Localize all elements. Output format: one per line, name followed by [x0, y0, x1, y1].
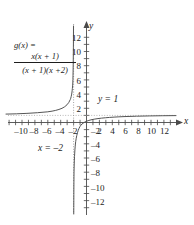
y-tick-label-6: 6 [66, 76, 81, 86]
y-tick-label-8: 8 [66, 61, 81, 71]
y-tick-label-4: 4 [66, 90, 81, 100]
y-tick-label-2: 2 [66, 104, 81, 114]
y-axis-group [84, 21, 90, 215]
y-axis-label: y [89, 21, 93, 31]
y-tick-label--8: –8 [91, 168, 107, 178]
y-tick-label--4: –4 [91, 140, 107, 150]
y-tick-label-12: 12 [66, 33, 81, 43]
x-tick-label-8: 8 [133, 126, 144, 136]
x-tick-label-4: 4 [107, 126, 118, 136]
x-tick-label--2: –2 [65, 126, 81, 136]
y-tick-label--2: –2 [91, 126, 107, 136]
x-axis-arrowhead [176, 120, 183, 126]
x-tick-label-12: 12 [157, 126, 172, 136]
x-axis-group [8, 120, 183, 126]
horizontal-asymptote-label: y = 1 [98, 95, 118, 105]
graph-figure: g(x) = x(x + 1) (x + 1)(x +2) y = 1 x = … [0, 0, 194, 225]
vertical-asymptote-label: x = –2 [38, 144, 63, 154]
y-tick-label--12: –12 [91, 197, 109, 207]
y-tick-label--10: –10 [91, 183, 109, 193]
y-tick-label--6: –6 [91, 154, 107, 164]
y-tick-label-10: 10 [66, 47, 81, 57]
x-axis-label: x [184, 116, 188, 126]
x-tick-label-6: 6 [120, 126, 131, 136]
